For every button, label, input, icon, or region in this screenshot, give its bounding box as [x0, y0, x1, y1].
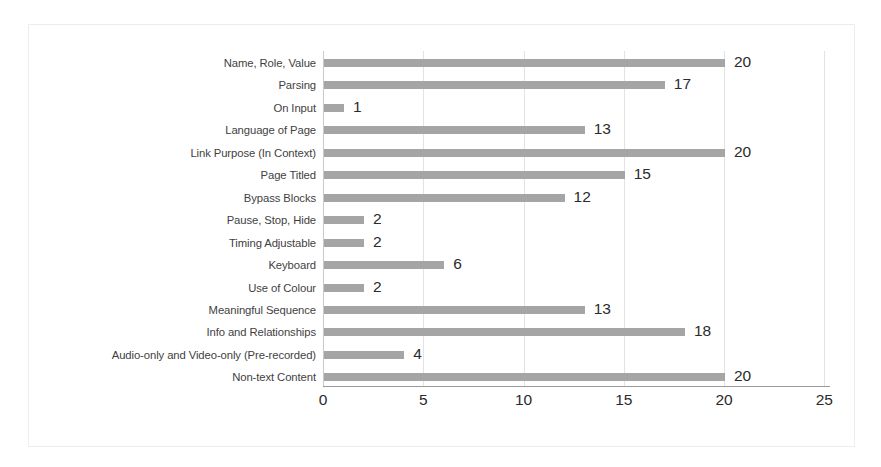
category-label: Link Purpose (In Context) — [190, 141, 316, 165]
category-label: Parsing — [278, 73, 316, 97]
category-label: Audio-only and Video-only (Pre-recorded) — [112, 343, 316, 367]
gridline-0 — [323, 51, 324, 387]
bar-value-label: 18 — [694, 319, 711, 343]
bar-row: Name, Role, Value20 — [29, 51, 856, 75]
bar — [324, 373, 725, 381]
bar-row: Keyboard6 — [29, 253, 856, 277]
bar-value-label: 4 — [413, 342, 422, 366]
bar-value-label: 2 — [373, 230, 382, 254]
category-label: Name, Role, Value — [224, 51, 316, 75]
bar-row: Meaningful Sequence13 — [29, 298, 856, 322]
category-label: Non-text Content — [232, 365, 316, 389]
x-axis-tick-label: 25 — [816, 391, 833, 409]
bar — [324, 194, 565, 202]
category-label: Keyboard — [268, 253, 316, 277]
bar-value-label: 13 — [594, 297, 611, 321]
bar — [324, 306, 585, 314]
bar — [324, 328, 685, 336]
bar-value-label: 20 — [734, 140, 751, 164]
bar-row: Parsing17 — [29, 73, 856, 97]
bar-value-label: 6 — [453, 252, 462, 276]
x-axis-tick-label: 20 — [715, 391, 732, 409]
bar-value-label: 20 — [734, 50, 751, 74]
bar-row: Link Purpose (In Context)20 — [29, 141, 856, 165]
bar — [324, 59, 725, 67]
bar-row: Use of Colour2 — [29, 276, 856, 300]
bar-value-label: 2 — [373, 207, 382, 231]
bar — [324, 239, 364, 247]
bar-row: Pause, Stop, Hide2 — [29, 208, 856, 232]
bar-value-label: 2 — [373, 275, 382, 299]
category-label: Info and Relationships — [206, 320, 316, 344]
bar-value-label: 13 — [594, 117, 611, 141]
bar — [324, 284, 364, 292]
category-label: Language of Page — [225, 118, 316, 142]
bar — [324, 149, 725, 157]
bar-value-label: 1 — [353, 95, 362, 119]
x-axis-tick-label: 0 — [319, 391, 328, 409]
bar-value-label: 15 — [634, 162, 651, 186]
bar-row: Timing Adjustable2 — [29, 231, 856, 255]
category-label: Meaningful Sequence — [209, 298, 316, 322]
bar-row: Bypass Blocks12 — [29, 186, 856, 210]
bar — [324, 104, 344, 112]
bar-row: On Input1 — [29, 96, 856, 120]
bar — [324, 261, 444, 269]
category-label: Page Titled — [261, 163, 316, 187]
category-label: Bypass Blocks — [244, 186, 316, 210]
category-label: Pause, Stop, Hide — [227, 208, 316, 232]
bar — [324, 216, 364, 224]
bar — [324, 351, 404, 359]
x-axis-tick-label: 5 — [419, 391, 428, 409]
category-label: Use of Colour — [248, 276, 316, 300]
x-axis-tick-label: 10 — [515, 391, 532, 409]
bar-row: Audio-only and Video-only (Pre-recorded)… — [29, 343, 856, 367]
bar-row: Info and Relationships18 — [29, 320, 856, 344]
x-axis-tick-label: 15 — [615, 391, 632, 409]
bar-row: Language of Page13 — [29, 118, 856, 142]
bar-value-label: 12 — [574, 185, 591, 209]
category-label: Timing Adjustable — [229, 231, 316, 255]
x-axis-line — [323, 386, 830, 387]
bar-value-label: 17 — [674, 72, 691, 96]
bar — [324, 171, 625, 179]
chart-frame: Name, Role, Value20Parsing17On Input1Lan… — [28, 24, 855, 447]
bar-value-label: 20 — [734, 364, 751, 388]
bar — [324, 126, 585, 134]
bar-row: Page Titled15 — [29, 163, 856, 187]
bar — [324, 81, 665, 89]
category-label: On Input — [273, 96, 316, 120]
plot-area: Name, Role, Value20Parsing17On Input1Lan… — [29, 25, 856, 448]
